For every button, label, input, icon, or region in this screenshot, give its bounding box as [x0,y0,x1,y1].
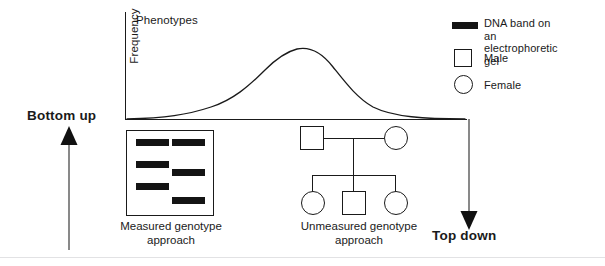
arrow-down-icon [458,119,480,231]
dna-band [172,169,205,176]
top-down-label: Top down [432,228,496,243]
legend-label: Male [484,52,508,65]
pedigree-sibling-drop-line [312,175,313,192]
pedigree-male-child [342,191,366,215]
legend-label: Female [484,79,521,92]
pedigree-descent-line [353,138,354,176]
dna-band [136,183,169,190]
unmeasured-genotype-caption: Unmeasured genotype approach [281,220,437,247]
dna-band [136,161,169,168]
pedigree-chart [296,126,422,218]
pedigree-male-parent [300,126,324,150]
electrophoretic-gel-box [126,130,214,216]
dna-band [172,139,205,146]
bell-curve [125,12,467,122]
bottom-divider [0,257,605,258]
dna-band [172,197,205,204]
frequency-distribution-chart: Frequency Phenotypes [125,12,467,122]
pedigree-female-child [301,191,325,215]
arrow-up-icon [58,126,80,252]
bottom-up-label: Bottom up [27,108,96,123]
pedigree-sibling-drop-line [395,175,396,192]
pedigree-female-child [384,191,408,215]
pedigree-sibling-drop-line [353,175,354,192]
dna-band-icon [452,22,478,29]
pedigree-female-parent [384,126,408,150]
female-circle-icon [454,75,473,94]
figure-container: Frequency Phenotypes Bottom up Top down … [0,0,605,266]
male-square-icon [454,49,472,67]
measured-genotype-caption: Measured genotype approach [110,220,232,247]
dna-band [136,139,169,146]
